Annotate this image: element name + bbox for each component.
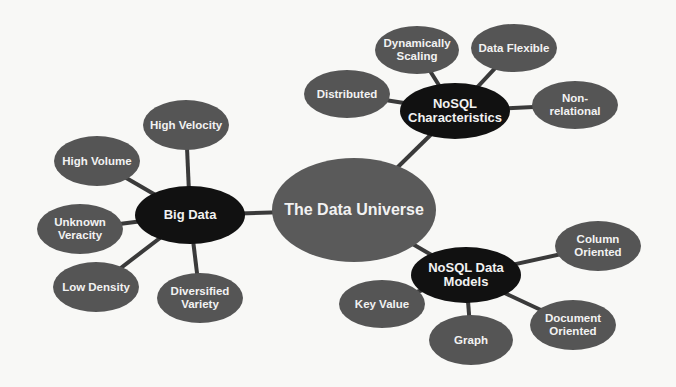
leaf-node-high-volume	[54, 136, 140, 186]
leaf-node-distributed	[304, 70, 390, 118]
leaf-node-non-relational	[532, 81, 618, 129]
center-node	[272, 158, 436, 262]
hub-node-nosql-characteristics	[400, 83, 510, 139]
leaf-node-column-oriented	[555, 221, 641, 271]
hub-node-nosql-data-models	[411, 247, 521, 303]
leaf-node-low-density	[53, 262, 139, 312]
hub-node-big-data	[135, 186, 245, 244]
leaf-node-key-value	[339, 280, 425, 328]
leaf-node-unknown-veracity	[37, 204, 123, 254]
leaf-node-dynamically-scaling	[375, 26, 459, 74]
leaf-node-document-oriented	[530, 300, 616, 350]
leaf-node-diversified-variety	[157, 273, 243, 323]
mind-map-diagram: The Data UniverseBig DataHigh VelocityHi…	[0, 0, 676, 387]
diagram-canvas	[0, 0, 676, 387]
leaf-node-graph	[429, 315, 513, 365]
leaf-node-data-flexible	[471, 24, 557, 72]
leaf-node-high-velocity	[143, 100, 229, 150]
